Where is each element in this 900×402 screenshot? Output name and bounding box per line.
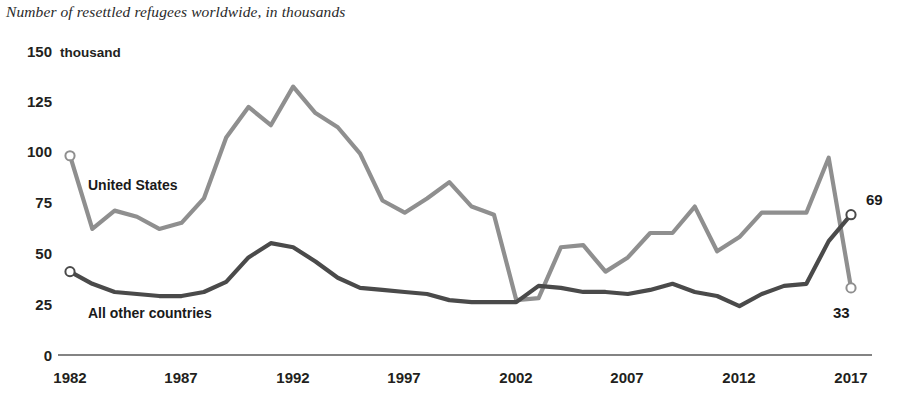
chart-root: Number of resettled refugees worldwide, … [0, 0, 900, 402]
marker-end-all-other-countries [846, 210, 855, 219]
marker-start-all-other-countries [65, 267, 74, 276]
chart-svg [0, 0, 900, 402]
marker-end-united-states [846, 283, 855, 292]
series-line-all-other-countries [70, 215, 851, 307]
plot-area [0, 0, 900, 402]
series-line-united-states [70, 87, 851, 301]
marker-start-united-states [65, 151, 74, 160]
